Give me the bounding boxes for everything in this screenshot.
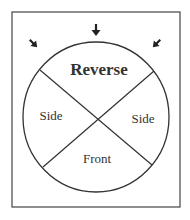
region-label-bottom: Front [83, 151, 112, 166]
region-label-left: Side [39, 108, 62, 123]
arrow-down-icon [92, 24, 101, 36]
arrow-down-left-icon [150, 37, 163, 50]
outer-frame [12, 12, 180, 207]
arrow-down-right-icon [27, 37, 40, 50]
view-direction-diagram: Reverse Side Side Front [0, 0, 190, 220]
region-label-top: Reverse [70, 60, 128, 79]
region-label-right: Side [131, 111, 154, 126]
